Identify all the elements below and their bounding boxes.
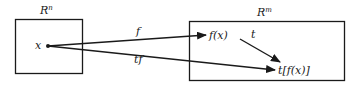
arrow-t-label: t [251,28,256,41]
arrow-tf-label: tf [134,53,144,66]
arrow-f [48,35,206,46]
domain-label-sup: n [48,4,53,12]
domain-label: Rn [39,4,53,17]
arrow-f-label: f [135,25,142,38]
point-fx-label: f(x) [208,29,228,42]
domain-label-base: R [39,4,48,17]
arrow-t [240,39,280,62]
composition-diagram: Rn Rm x f tf f(x) t t[f(x)] [0,0,360,88]
codomain-label-sup: m [265,6,272,14]
codomain-label: Rm [256,6,272,19]
point-tfx-label: t[f(x)] [278,64,311,77]
codomain-label-base: R [256,6,265,19]
point-x-label: x [35,39,42,52]
